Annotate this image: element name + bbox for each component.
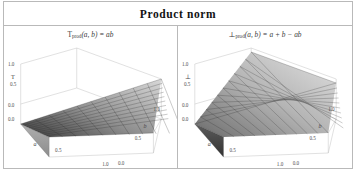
x-tick-mid: 0.5 [55,147,62,153]
x-tick-0: 0.0 [182,116,189,122]
panel-label-subscript: prod [72,33,81,39]
z-axis-name: ⊥ [185,73,191,80]
panel-t-conorm: ⊥prod(a, b) = a + b − ab [178,26,352,169]
z-axis-name: T [11,73,15,80]
panel-label-subscript: prod [235,33,244,39]
surface-plot-t-conorm: 1.0 ⊥ 0.5 0.0 0.0 a 0.5 1.0 0.0 0.5 [178,40,352,169]
x-axis-name: a [33,141,36,147]
x-tick-mid: 0.5 [229,147,236,153]
panel-label-args: (a, b) [245,30,261,39]
y-tick-mid: 0.5 [309,135,316,141]
panel-label-equation: = a + b − ab [261,30,302,39]
panel-t-norm: Tprod(a, b) = ab [4,26,178,169]
z-axis-labels-t-conorm: 1.0 ⊥ 0.5 0.0 [182,61,191,108]
z-tick-0: 0.0 [8,102,15,108]
z-tick-mid: 0.5 [10,81,17,87]
panel-label-args: (a, b) [81,30,97,39]
z-tick-mid: 0.5 [184,81,191,87]
panel-label-equation: = ab [97,30,113,39]
y-tick-mid: 0.5 [135,135,142,141]
y-tick-1: 1.0 [328,106,335,112]
y-tick-1: 1.0 [153,106,160,112]
surface-svg-t-conorm: 1.0 ⊥ 0.5 0.0 0.0 a 0.5 1.0 0.0 0.5 [178,40,352,169]
z-axis-labels-t-norm: 1.0 T 0.5 0.0 [8,61,17,108]
page-title: Product norm [140,8,216,20]
surface-mesh-t-conorm [195,52,343,157]
y-axis-name: b [144,123,147,129]
plot-panels: Tprod(a, b) = ab [4,26,352,169]
figure-frame: Product norm Tprod(a, b) = ab [3,1,353,169]
y-axis-name: b [318,123,321,129]
figure-title-bar: Product norm [4,2,352,26]
surface-svg-t-norm: 1.0 T 0.5 0.0 0.0 a 0.5 1.0 0.0 [4,40,177,169]
x-axis-name: a [208,141,211,147]
x-tick-1: 1.0 [102,161,109,167]
surface-plot-t-norm: 1.0 T 0.5 0.0 0.0 a 0.5 1.0 0.0 [4,40,177,169]
x-tick-0: 0.0 [8,116,15,122]
x-tick-1: 1.0 [277,161,284,167]
panel-label-t-conorm: ⊥prod(a, b) = a + b − ab [178,30,352,39]
panel-label-t-norm: Tprod(a, b) = ab [4,30,177,39]
z-tick-1: 1.0 [8,61,15,67]
y-tick-0: 0.0 [293,160,300,166]
z-tick-1: 1.0 [182,61,189,67]
y-tick-0: 0.0 [118,160,125,166]
z-tick-0: 0.0 [182,102,189,108]
